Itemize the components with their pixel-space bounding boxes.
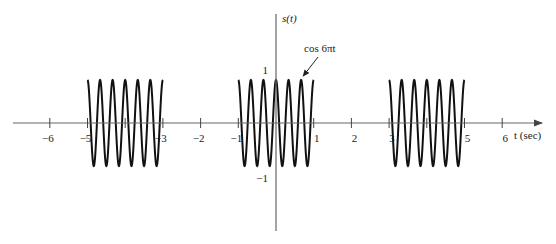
x-tick-label: 5	[465, 132, 471, 144]
annotation-arrow	[303, 57, 318, 76]
x-tick-label: 6	[502, 132, 508, 144]
x-tick-label: −1	[230, 132, 242, 144]
x-tick-label: −5	[80, 132, 92, 144]
x-tick-label: −6	[42, 132, 54, 144]
y-axis-label: s(t)	[282, 12, 297, 25]
y-tick-label: 1	[263, 64, 269, 76]
chart: −6−5−3−2−1123561−1 s(t) t (sec) cos 6πt	[0, 0, 556, 244]
x-tick-label: −3	[155, 132, 167, 144]
x-tick-label: 2	[352, 132, 358, 144]
y-tick-label: −1	[256, 172, 268, 184]
x-axis-label: t (sec)	[514, 129, 542, 142]
annotation-cos-label: cos 6πt	[304, 42, 336, 54]
x-tick-label: 3	[389, 132, 395, 144]
x-tick-label: −2	[193, 132, 205, 144]
x-tick-label: 1	[314, 132, 320, 144]
